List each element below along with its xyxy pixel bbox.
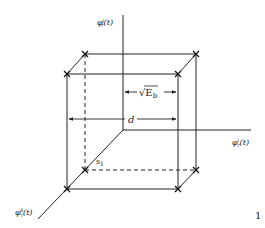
depth-axis: [38, 130, 123, 219]
horizontal-axis-label: φir(t): [232, 137, 249, 148]
sqrt-eb-label: √Eb: [139, 87, 158, 100]
d-label: d: [128, 114, 134, 125]
point-s1-label: s1: [96, 157, 104, 167]
vertical-axis-label: φjr(t): [97, 17, 113, 28]
cube-constellation-diagram: √Eb d φjr(t) φir(t) φkr(t) s1 1: [0, 0, 265, 228]
diagram-canvas: √Eb d φjr(t) φir(t) φkr(t) s1 1: [0, 0, 265, 228]
axes: [38, 15, 251, 219]
page-marker: 1: [255, 210, 261, 221]
depth-axis-label: φkr(t): [15, 207, 33, 218]
